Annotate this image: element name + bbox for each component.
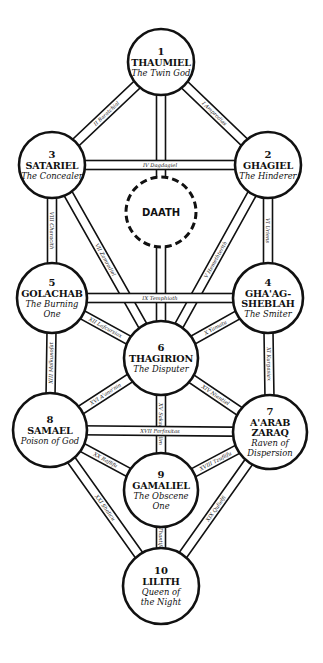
node-title: Raven of (250, 438, 290, 448)
daath-layer: DAATH (126, 177, 196, 247)
path-label: XV Saksaksalim (158, 402, 164, 445)
path-label: XII Lafcursiax (87, 315, 124, 339)
node-title: The Burning (26, 299, 79, 309)
node-number: 4 (265, 277, 272, 288)
node-title: Queen of (142, 587, 182, 597)
node-title: The Disputer (133, 364, 189, 374)
path-label: VIII Characith (49, 212, 55, 250)
sephirah-node-5: 5GOLACHABThe BurningOne (17, 263, 87, 333)
node-name: GAMALIEL (132, 480, 190, 491)
path-label: XVIII Tzuflifu (198, 450, 233, 473)
node-title: The Smiter (244, 309, 292, 319)
node-name: THAUMIEL (131, 57, 191, 68)
node-number: 9 (158, 469, 165, 480)
sephirah-node-4: 4GHA'AG-SHEBLAHThe Smiter (233, 263, 303, 333)
node-number: 8 (47, 414, 54, 425)
daath-label: DAATH (142, 207, 180, 218)
path-label: V Hemethterith (203, 240, 228, 279)
path-label: IV Dagdagiel (142, 162, 177, 169)
node-title: The Twin God (132, 68, 192, 78)
node-name: SATARIEL (26, 160, 79, 171)
path-label: VI Uriens (265, 218, 271, 243)
node-name: SHEBLAH (241, 298, 294, 309)
qliphoth-tree-diagram: I AmprodiasII BaratchialIII GargophiasIV… (0, 0, 323, 663)
sephirah-node-3: 3SATARIELThe Concealer (19, 132, 85, 198)
path-label: XIV Niantiel (200, 383, 231, 407)
node-name: LILITH (142, 576, 180, 587)
node-number: 5 (49, 277, 56, 288)
sephirah-node-1: 1THAUMIELThe Twin God (128, 29, 194, 95)
node-number: 7 (267, 406, 274, 417)
node-number: 3 (49, 149, 56, 160)
node-title: Poison of God (20, 436, 80, 446)
node-name: GHA'AG- (245, 288, 291, 299)
node-name: A'ARAB (249, 417, 290, 428)
sephirah-node-8: 8SAMAELPoison of God (13, 393, 87, 467)
node-name: GOLACHAB (21, 288, 82, 299)
node-title: Dispersion (246, 448, 292, 458)
node-name: THAGIRION (129, 353, 194, 364)
sephirah-node-10: 10LILITHQueen ofthe Night (123, 548, 199, 624)
node-number: 6 (158, 342, 165, 353)
node-name: GHAGIEL (243, 160, 293, 171)
node-title: One (152, 501, 169, 511)
node-title: The Concealer (21, 171, 84, 181)
node-number: 2 (265, 149, 272, 160)
node-title: The Obscene (133, 491, 188, 501)
sephirah-node-2: 2GHAGIELThe Hinderer (235, 132, 301, 198)
path-label: XXI Shalicu (93, 492, 116, 521)
path-label: I Amprodias (200, 99, 229, 127)
sephirah-node-7: 7A'ARABZARAQRaven ofDispersion (233, 395, 307, 469)
path-label: IX Temphioth (141, 295, 177, 302)
node-title: The Hinderer (239, 171, 297, 181)
sephirah-node-9: 9GAMALIELThe ObsceneOne (124, 453, 198, 527)
path-label: XIX Qulielfi (204, 494, 228, 524)
sephirah-node-6: 6THAGIRIONThe Disputer (124, 321, 198, 395)
path-label: II Baratchial (92, 100, 121, 128)
node-number: 10 (154, 565, 168, 576)
node-title: the Night (141, 597, 182, 607)
path-label: VII Zamradiel (94, 242, 117, 277)
node-title: One (43, 309, 60, 319)
node-name: SAMAEL (27, 425, 73, 436)
path-label: XVI A'ano'nin (88, 382, 122, 407)
node-name: ZARAQ (251, 427, 288, 438)
node-number: 1 (158, 46, 165, 57)
